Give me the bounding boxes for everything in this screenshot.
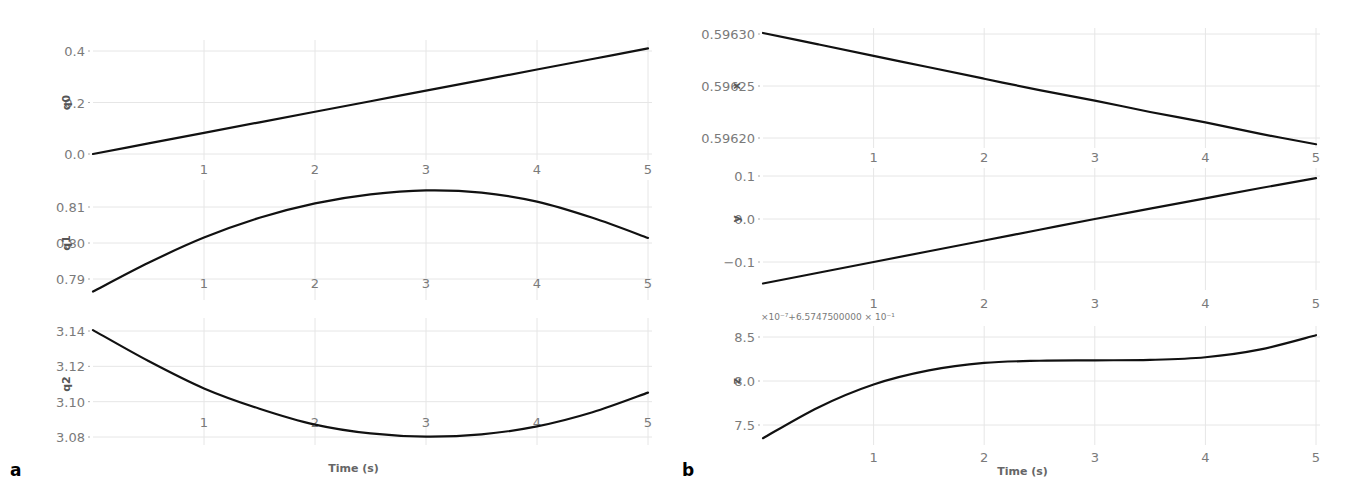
y-tick-label: 0.81 [56, 200, 85, 215]
y-axis-label: q1 [60, 235, 73, 251]
x-tick-label: 2 [311, 276, 319, 291]
x-tick-label: 3 [422, 415, 430, 430]
y-axis-label: q0 [60, 94, 73, 110]
x-tick-label: 2 [980, 450, 988, 465]
x-tick-label: 4 [1201, 150, 1209, 165]
x-tick-label: 1 [200, 162, 208, 177]
x-tick-label: 5 [1312, 450, 1320, 465]
series-z-line [763, 335, 1316, 438]
y-tick-label: 7.5 [734, 418, 755, 433]
x-tick-label: 1 [869, 450, 877, 465]
y-axis-label: q2 [60, 376, 73, 392]
x-tick-label: 4 [533, 162, 541, 177]
panel-label-a: a [10, 460, 21, 480]
y-axis-label: y [730, 215, 743, 222]
x-tick-label: 5 [644, 276, 652, 291]
x-tick-label: 3 [422, 276, 430, 291]
y-tick-label: −0.1 [723, 255, 755, 270]
x-tick-label: 1 [200, 415, 208, 430]
y-tick-label: 0.59620 [701, 131, 755, 146]
y-tick-label: 0.59630 [701, 27, 755, 42]
y-tick-label: 3.08 [56, 430, 85, 445]
x-tick-label: 3 [1091, 296, 1099, 311]
y-axis-label: x [730, 82, 743, 89]
y-axis-label: z [730, 378, 743, 384]
series-x-line [763, 33, 1316, 144]
x-tick-label: 2 [980, 150, 988, 165]
y-tick-label: 3.14 [56, 324, 85, 339]
y-tick-label: 0.0 [64, 147, 85, 162]
series-q0-line [93, 48, 648, 154]
y-tick-label: 0.79 [56, 272, 85, 287]
y-tick-label: 0.59625 [701, 79, 755, 94]
x-tick-label: 3 [1091, 450, 1099, 465]
x-tick-label: 5 [644, 415, 652, 430]
x-tick-label: 1 [869, 150, 877, 165]
x-tick-label: 5 [1312, 296, 1320, 311]
x-tick-label: 1 [200, 276, 208, 291]
x-tick-label: 2 [311, 162, 319, 177]
x-tick-label: 2 [311, 415, 319, 430]
x-axis-label: Time (s) [328, 462, 379, 475]
panel-label-b: b [682, 460, 694, 480]
x-tick-label: 1 [869, 296, 877, 311]
figure: 0.00.20.412345q00.790.800.8112345q13.083… [0, 0, 1347, 504]
x-tick-label: 4 [1201, 296, 1209, 311]
x-tick-label: 4 [533, 276, 541, 291]
series-q2-line [93, 330, 648, 437]
y-tick-label: 8.5 [734, 330, 755, 345]
x-tick-label: 3 [1091, 150, 1099, 165]
x-tick-label: 2 [980, 296, 988, 311]
series-y-line [763, 178, 1316, 283]
x-tick-label: 3 [422, 162, 430, 177]
x-tick-label: 5 [1312, 150, 1320, 165]
y-tick-label: 3.10 [56, 395, 85, 410]
y-tick-label: 0.1 [734, 169, 755, 184]
x-tick-label: 5 [644, 162, 652, 177]
y-tick-label: 3.12 [56, 359, 85, 374]
x-tick-label: 4 [1201, 450, 1209, 465]
y-tick-label: 0.4 [64, 44, 85, 59]
x-axis-label: Time (s) [997, 465, 1048, 478]
axis-offset-label: ×10⁻⁷+6.5747500000 × 10⁻¹ [761, 312, 895, 322]
series-q1-line [93, 190, 648, 291]
